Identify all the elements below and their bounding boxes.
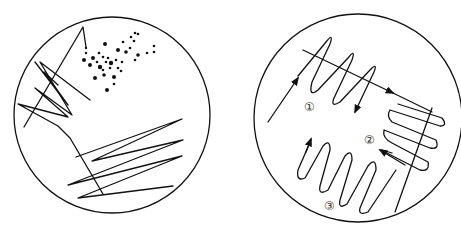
left-upper-zigzag-2 bbox=[18, 62, 103, 194]
left-lower-zigzag bbox=[68, 119, 183, 198]
left-petri-dish bbox=[14, 17, 210, 213]
region-3-arrow bbox=[306, 139, 311, 152]
region-1-label: ① bbox=[304, 100, 315, 114]
streak-plate-figure: ① ② ③ bbox=[0, 0, 461, 232]
region-3-label: ③ bbox=[324, 199, 335, 213]
right-petri-dish: ① ② ③ bbox=[254, 14, 461, 222]
region-2-arrow bbox=[380, 150, 405, 165]
left-upper-zigzag-3 bbox=[35, 62, 68, 105]
start-arrow bbox=[268, 78, 298, 122]
right-dish-outline bbox=[254, 14, 461, 222]
region-2-label: ② bbox=[364, 133, 375, 147]
colony-dots bbox=[82, 32, 155, 92]
